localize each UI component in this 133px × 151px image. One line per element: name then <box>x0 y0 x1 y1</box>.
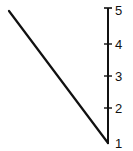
tick-label-3: 3 <box>115 69 122 84</box>
tick-label-4: 4 <box>115 37 122 52</box>
diagonal-line <box>9 11 108 143</box>
tick-label-5: 5 <box>115 3 122 18</box>
scale-diagram: 5 4 3 2 1 <box>0 0 133 151</box>
tick-label-2: 2 <box>115 101 122 116</box>
tick-label-1: 1 <box>115 136 122 151</box>
